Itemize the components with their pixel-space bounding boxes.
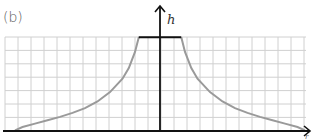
chart-figure: (b) r h: [0, 0, 317, 139]
panel-label: (b): [3, 9, 23, 25]
x-axis-label: r: [305, 133, 309, 139]
y-axis-label: h: [167, 12, 175, 27]
x-axis: r: [3, 126, 310, 139]
y-axis: h: [155, 6, 175, 131]
